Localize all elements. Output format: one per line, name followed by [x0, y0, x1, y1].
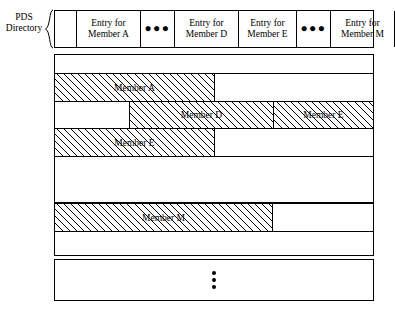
member-extent-block: Member E	[273, 102, 373, 128]
free-space-block	[55, 157, 373, 202]
ellipsis-dot	[212, 278, 216, 282]
ellipsis-dot	[212, 285, 216, 289]
member-label: Member E	[301, 110, 345, 120]
directory-entry-text: Entry forMember E	[247, 18, 287, 41]
directory-entry-text: Entry forMember D	[186, 18, 227, 41]
directory-entry-line-2: Member E	[247, 29, 287, 41]
member-label: Member E	[112, 138, 156, 148]
directory-entry-line-2: Member A	[88, 29, 129, 41]
directory-entry-cell: Entry forMember M	[331, 11, 395, 47]
member-extent-block: Member A	[55, 74, 214, 101]
free-space-block	[214, 74, 373, 101]
row-empty-3	[54, 231, 374, 256]
caption-line-1: PDS	[2, 12, 46, 23]
curly-brace-icon	[44, 9, 54, 49]
free-space-block	[214, 129, 373, 156]
directory-entry-line-1: Entry for	[341, 18, 384, 30]
ellipsis-dot	[212, 271, 216, 275]
directory-entry-cell: Entry forMember A	[77, 11, 141, 47]
free-space-block	[55, 232, 373, 255]
row-member-m: Member M	[54, 203, 374, 232]
row-member-a: Member A	[54, 73, 374, 102]
member-extent-block: Member M	[55, 204, 272, 231]
directory-entry-cell: Entry forMember D	[175, 11, 239, 47]
row-vertical-ellipsis	[54, 259, 374, 301]
directory-blank-cell	[55, 11, 77, 47]
row-member-d-e: Member DMember E	[54, 101, 374, 129]
directory-entry-text: Entry forMember M	[341, 18, 384, 41]
directory-ellipsis-icon: ●●●	[141, 11, 175, 47]
pds-directory-strip: Entry forMember A●●●Entry forMember DEnt…	[54, 10, 374, 48]
directory-entry-line-2: Member M	[341, 29, 384, 41]
row-member-e: Member E	[54, 128, 374, 157]
pds-directory-caption: PDS Directory	[2, 12, 46, 34]
directory-entry-text: Entry forMember A	[88, 18, 129, 41]
member-label: Member M	[140, 213, 187, 223]
row-empty-1	[54, 54, 374, 74]
directory-entry-line-1: Entry for	[88, 18, 129, 30]
directory-entry-line-1: Entry for	[186, 18, 227, 30]
directory-ellipsis-icon: ●●●	[297, 11, 331, 47]
directory-ellipsis-glyph: ●●●	[300, 23, 326, 35]
vertical-ellipsis-icon	[55, 260, 373, 300]
row-empty-2	[54, 156, 374, 203]
member-label: Member D	[179, 110, 224, 120]
member-extent-block: Member D	[129, 102, 273, 128]
free-space-block	[55, 102, 129, 128]
free-space-block	[272, 204, 373, 231]
directory-entry-line-1: Entry for	[247, 18, 287, 30]
member-label: Member A	[112, 83, 157, 93]
caption-line-2: Directory	[2, 23, 46, 34]
member-extent-block: Member E	[55, 129, 214, 156]
directory-entry-line-2: Member D	[186, 29, 227, 41]
directory-entry-cell: Entry forMember E	[239, 11, 297, 47]
directory-ellipsis-glyph: ●●●	[144, 23, 170, 35]
free-space-block	[55, 55, 373, 73]
